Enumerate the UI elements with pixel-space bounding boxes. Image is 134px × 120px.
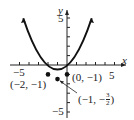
- parabola-curve: [23, 18, 91, 69]
- point-vertex: [55, 77, 60, 82]
- y-max-label: 5: [58, 13, 64, 24]
- x-axis-label: x: [122, 55, 127, 66]
- x-max-label: 5: [109, 70, 115, 81]
- point-0-neg1: [65, 72, 70, 77]
- point-label-right: (0, −1): [72, 72, 102, 83]
- vertex-fraction: 3 2: [106, 92, 110, 107]
- vertex-label-prefix: (−1, −: [78, 94, 105, 105]
- point-neg2-neg1: [46, 72, 51, 77]
- y-min-label: −5: [52, 106, 64, 117]
- point-label-left: (−2, −1): [10, 79, 46, 90]
- fraction-denominator: 2: [106, 100, 110, 107]
- y-axis-arrow-icon: [65, 10, 69, 15]
- vertex-label-suffix: ): [111, 94, 115, 105]
- x-min-label: −5: [13, 67, 25, 78]
- point-label-vertex: (−1, − 3 2 ): [78, 92, 114, 107]
